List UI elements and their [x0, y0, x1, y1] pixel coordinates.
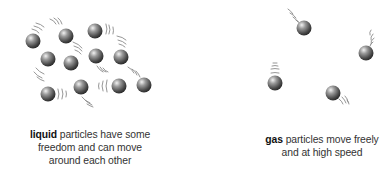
liquid-particle	[114, 50, 129, 65]
gas-particle	[297, 21, 312, 36]
liquid-caption-line-1: liquid particles have some	[23, 128, 158, 141]
liquid-caption-line-3: around each other	[23, 154, 158, 167]
gas-caption: gas particles move freely and at high sp…	[255, 133, 390, 159]
liquid-particle	[41, 52, 56, 67]
liquid-particle	[89, 49, 104, 64]
liquid-keyword: liquid	[30, 128, 57, 140]
gas-caption-line-1: gas particles move freely	[255, 133, 390, 146]
gas-motion-lines	[271, 9, 374, 104]
liquid-particle	[26, 34, 41, 49]
liquid-particles	[26, 24, 152, 102]
gas-particles	[268, 21, 374, 101]
gas-caption-line-2: and at high speed	[255, 146, 390, 159]
gas-keyword: gas	[265, 133, 283, 145]
liquid-caption-line-2: freedom and can move	[23, 141, 158, 154]
gas-particle	[268, 76, 283, 91]
gas-particle	[326, 86, 341, 101]
liquid-caption: liquid particles have some freedom and c…	[23, 128, 158, 167]
gas-particle	[359, 46, 374, 61]
liquid-particle	[41, 87, 56, 102]
particle-diagram	[0, 0, 390, 120]
liquid-particle	[64, 56, 79, 71]
liquid-particle	[137, 78, 152, 93]
liquid-particle	[88, 24, 103, 39]
liquid-particle	[59, 29, 74, 44]
liquid-particle	[112, 79, 127, 94]
liquid-particle	[74, 80, 89, 95]
